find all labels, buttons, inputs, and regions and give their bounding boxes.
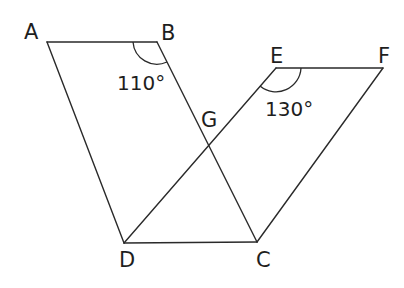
vertex-label-g: G: [201, 108, 217, 132]
angle-label-e: 130°: [265, 97, 313, 121]
segment-ad: [47, 42, 124, 243]
angle-label-b: 110°: [117, 71, 165, 95]
vertex-label-f: F: [378, 44, 390, 68]
vertex-label-b: B: [161, 21, 175, 45]
geometry-diagram: A B E F G D C 110° 130°: [0, 0, 404, 288]
vertex-label-e: E: [270, 44, 283, 68]
segment-bc: [157, 42, 257, 242]
vertex-label-c: C: [256, 248, 271, 272]
vertex-label-a: A: [24, 20, 39, 44]
vertex-label-d: D: [119, 248, 135, 272]
segment-fc: [257, 68, 383, 242]
segment-dc: [124, 242, 257, 243]
